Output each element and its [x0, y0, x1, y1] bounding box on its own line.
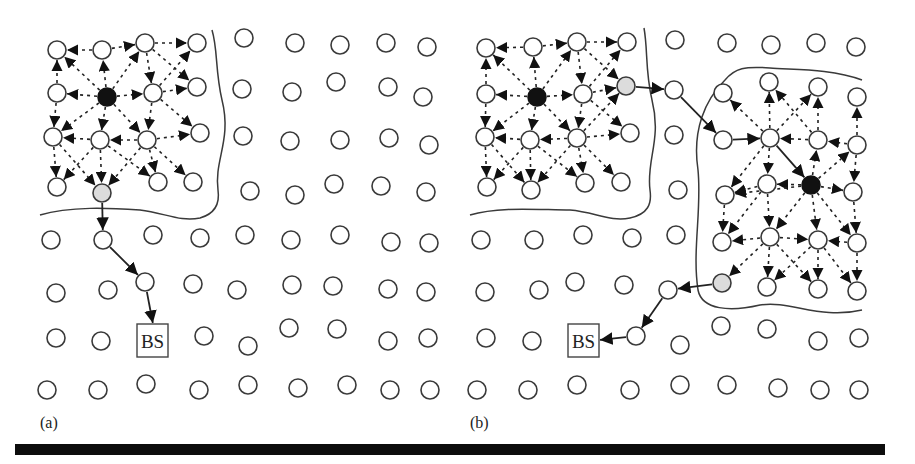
base-station-label: BS — [141, 331, 164, 352]
sensor-node — [136, 273, 154, 291]
flood-edge-arrow — [774, 247, 810, 280]
sensor-node — [809, 78, 827, 96]
sensor-node — [809, 280, 827, 298]
sensor-node — [137, 375, 155, 393]
flood-edge-arrow — [530, 150, 531, 180]
sensor-node — [761, 129, 779, 147]
sensor-node — [188, 78, 206, 96]
sensor-node — [848, 136, 866, 154]
flood-edge-arrow — [495, 138, 520, 140]
sensor-node — [472, 231, 490, 249]
sensor-node — [807, 34, 825, 52]
flood-edge-arrow — [160, 51, 191, 86]
sensor-node — [235, 29, 253, 47]
flood-edge-arrow — [584, 49, 618, 80]
sensor-node — [809, 231, 827, 249]
sensor-node — [324, 277, 342, 295]
sensor-node — [239, 337, 257, 355]
sensor-node — [149, 173, 167, 191]
route-arrow — [147, 292, 153, 323]
sensor-node — [848, 88, 866, 106]
sensor-node — [144, 84, 162, 102]
flood-edge-arrow — [854, 155, 856, 182]
sensor-node — [414, 88, 432, 106]
flood-edge-arrow — [543, 43, 567, 46]
flood-edge-arrow — [493, 55, 530, 90]
sensor-node — [809, 131, 827, 149]
sensor-node — [476, 128, 494, 146]
sensor-node — [92, 332, 110, 350]
route-arrow — [110, 247, 138, 275]
sensor-node — [713, 233, 731, 251]
route-arrow — [636, 87, 664, 89]
sensor-node — [844, 183, 862, 201]
sensor-node — [283, 276, 301, 294]
sensor-node — [419, 329, 437, 347]
sensor-node — [136, 34, 154, 52]
flood-edge-arrow — [817, 193, 851, 235]
flood-edge-arrow — [63, 138, 90, 140]
flood-edge-arrow — [61, 103, 99, 131]
sensor-node — [758, 175, 776, 193]
flood-edge-arrow — [584, 145, 614, 175]
sensor-node — [331, 131, 349, 149]
sensor-node — [89, 381, 107, 399]
flood-edge-arrow — [117, 94, 143, 96]
sensor-node — [325, 175, 343, 193]
flood-edge-arrow — [112, 45, 135, 49]
sensor-node — [809, 332, 827, 350]
sensor-node — [44, 128, 62, 146]
panel-label-a: (a) — [40, 414, 58, 432]
sensor-node — [714, 131, 732, 149]
sensor-node — [769, 379, 787, 397]
sensor-node — [850, 329, 868, 347]
sensor-node — [848, 282, 866, 300]
flood-edge-arrow — [54, 103, 56, 127]
flood-edge-arrow — [532, 107, 536, 130]
sensor-node — [282, 231, 300, 249]
flood-edge-arrow — [108, 148, 140, 186]
sensor-node — [234, 127, 252, 145]
gateway-node — [713, 274, 731, 292]
sensor-node — [525, 231, 543, 249]
sensor-node — [848, 234, 866, 252]
flood-edge-arrow — [854, 202, 856, 233]
sensor-node — [421, 381, 439, 399]
flood-edge-arrow — [150, 150, 156, 173]
cluster-boundary — [470, 28, 655, 219]
gateway-node — [93, 184, 111, 202]
sensor-node — [241, 182, 259, 200]
sensor-node — [93, 41, 111, 59]
flood-edge-arrow — [64, 147, 93, 179]
panel-a: BS — [38, 29, 439, 399]
flood-edge-arrow — [828, 241, 847, 242]
flood-edge-arrow — [161, 99, 193, 126]
sensor-node — [331, 36, 349, 54]
flood-edge-arrow — [828, 141, 847, 143]
sensor-node — [477, 329, 495, 347]
base-station-label: BS — [572, 331, 595, 352]
flood-edge-arrow — [485, 104, 486, 127]
sensor-node — [760, 73, 778, 91]
figure-bottom-rule — [15, 444, 885, 455]
sensor-node — [286, 34, 304, 52]
sensor-node — [377, 34, 395, 52]
flood-edge-arrow — [157, 134, 190, 138]
sensor-node — [718, 376, 736, 394]
sensor-node — [420, 234, 438, 252]
sensor-node — [712, 317, 730, 335]
flood-edge-arrow — [147, 53, 152, 83]
sensor-node — [521, 131, 539, 149]
flood-edge-arrow — [493, 103, 529, 131]
sensor-node — [758, 320, 776, 338]
sensor-node — [530, 281, 548, 299]
sensor-node — [418, 38, 436, 56]
sensor-node — [762, 36, 780, 54]
flood-edge-arrow — [496, 47, 523, 48]
sensor-node — [615, 276, 633, 294]
sensor-node — [618, 33, 636, 51]
route-arrow — [600, 337, 626, 340]
flood-edge-arrow — [768, 247, 770, 277]
sensor-node — [48, 178, 66, 196]
sensor-node — [666, 31, 684, 49]
